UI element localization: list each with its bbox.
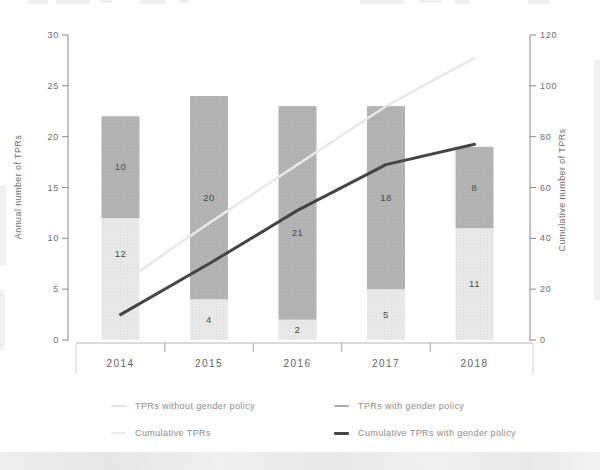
bar-value-label-without-2017: 5 xyxy=(383,309,389,320)
scan-artifact xyxy=(528,0,550,4)
year-label: 2017 xyxy=(372,358,400,369)
scan-artifact xyxy=(140,0,166,4)
scan-artifact-band xyxy=(0,452,600,470)
right-axis-tick-label: 120 xyxy=(540,30,557,40)
left-axis-title: Annual number of TPRs xyxy=(13,135,23,239)
left-axis-tick-label: 30 xyxy=(47,30,59,40)
year-label: 2016 xyxy=(284,358,312,369)
right-axis-tick-label: 40 xyxy=(540,233,552,243)
left-axis-tick-label: 20 xyxy=(47,132,59,142)
right-axis-title: Cumulative number of TPRs xyxy=(557,128,567,251)
scan-artifact xyxy=(56,0,90,4)
bar-value-label-with-2018: 8 xyxy=(472,182,478,193)
bar-value-label-with-2017: 18 xyxy=(380,192,392,203)
chart-screenshot: 051015202530Annual number of TPRs0204060… xyxy=(0,0,600,470)
scan-artifact xyxy=(360,0,404,4)
left-axis-tick-label: 25 xyxy=(47,81,59,91)
scan-artifact xyxy=(594,60,600,300)
scan-artifact xyxy=(0,185,6,265)
year-label: 2015 xyxy=(195,358,223,369)
bar-value-label-without-2015: 4 xyxy=(206,314,212,325)
bar-segment-texture xyxy=(279,106,317,320)
scan-artifact xyxy=(100,0,112,3)
scan-artifact xyxy=(418,0,442,3)
year-label: 2018 xyxy=(461,358,489,369)
left-axis-tick-label: 0 xyxy=(53,335,59,345)
bar-segment-texture xyxy=(102,218,140,340)
left-axis-tick-label: 10 xyxy=(47,233,59,243)
right-axis-tick-label: 100 xyxy=(540,81,557,91)
scan-artifact xyxy=(455,0,469,4)
scan-artifact xyxy=(0,290,5,350)
bar-value-label-with-2016: 21 xyxy=(292,227,304,238)
bar-value-label-without-2018: 11 xyxy=(469,278,480,289)
left-axis-tick-label: 15 xyxy=(47,183,59,193)
right-axis-tick-label: 80 xyxy=(540,132,552,142)
left-axis-tick-label: 5 xyxy=(53,284,59,294)
scan-artifact xyxy=(178,0,190,3)
right-axis-tick-label: 20 xyxy=(540,284,552,294)
year-label: 2014 xyxy=(107,358,135,369)
scan-artifact xyxy=(28,0,48,4)
bar-value-label-with-2015: 20 xyxy=(203,192,215,203)
bar-value-label-without-2016: 2 xyxy=(295,324,301,335)
bar-value-label-with-2014: 10 xyxy=(115,161,127,172)
tpr-chart: 051015202530Annual number of TPRs0204060… xyxy=(0,0,600,470)
right-axis-tick-label: 60 xyxy=(540,183,552,193)
bar-value-label-without-2014: 12 xyxy=(115,248,127,259)
right-axis-tick-label: 0 xyxy=(540,335,546,345)
